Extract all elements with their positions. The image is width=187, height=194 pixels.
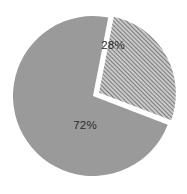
pie-chart: 72% 28% [0, 0, 187, 194]
pie-slice-label-28: 28% [101, 39, 125, 51]
pie-slice-label-72: 72% [73, 119, 97, 131]
pie-chart-canvas: 72% 28% [0, 0, 187, 194]
